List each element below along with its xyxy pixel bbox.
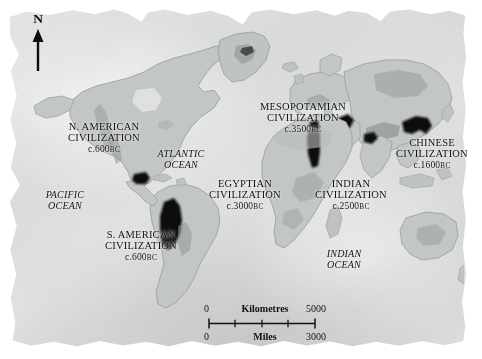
landmass-new-zealand	[458, 264, 468, 284]
map-figure: N N. AMERICAN CIVILIZATION c.600BC S. AM…	[0, 0, 482, 359]
label-mesopotamian-civilization: MESOPOTAMIAN CIVILIZATION c.3500BC	[237, 101, 369, 134]
label-indian-ocean: INDIAN OCEAN	[304, 248, 384, 270]
scale-bar: 0 Kilometres 5000 0 Miles 3000	[204, 303, 326, 347]
scale-miles-zero: 0	[204, 331, 209, 342]
label-s-american-civilization: S. AMERICAN CIVILIZATION c.600BC	[79, 229, 203, 262]
label-indian-civilization: INDIAN CIVILIZATION c.2500BC	[296, 178, 406, 211]
label-pacific-ocean: PACIFIC OCEAN	[22, 189, 108, 211]
scale-kilometres-row: 0 Kilometres 5000	[204, 303, 326, 317]
scale-miles-row: 0 Miles 3000	[204, 331, 326, 345]
scale-bar-ruler	[207, 318, 317, 329]
label-chinese-civilization: CHINESE CIVILIZATION c.1600BC	[382, 137, 482, 170]
landmass-australia	[400, 212, 468, 284]
scale-km-max: 5000	[306, 303, 326, 314]
label-egyptian-civilization: EGYPTIAN CIVILIZATION c.3000BC	[190, 178, 300, 211]
scale-km-unit: Kilometres	[241, 303, 288, 314]
north-arrow-icon: N	[25, 11, 51, 71]
scale-miles-unit: Miles	[253, 331, 276, 342]
scale-miles-max: 3000	[306, 331, 326, 342]
landmass-greenland	[218, 32, 270, 82]
scale-km-zero: 0	[204, 303, 209, 314]
north-label: N	[25, 11, 51, 27]
landmass-iceland	[282, 62, 298, 72]
label-atlantic-ocean: ATLANTIC OCEAN	[136, 148, 226, 170]
